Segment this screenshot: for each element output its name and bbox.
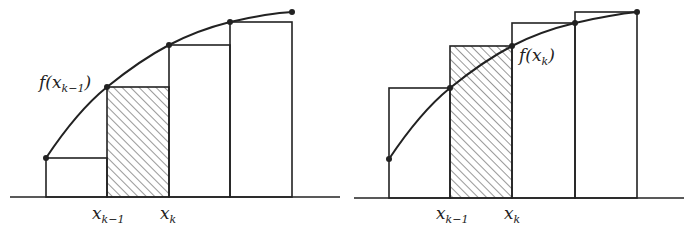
rectangles xyxy=(389,12,637,198)
axis-label-xk-1: xk−1 xyxy=(436,203,468,226)
riemann-sum-figure: f(xk−1) xk−1 xk f(xk) xyxy=(0,0,688,245)
hatched-rectangle xyxy=(107,87,169,197)
curve-points xyxy=(386,9,640,162)
axis-label-xk: xk xyxy=(160,203,177,226)
hatched-rectangle xyxy=(450,46,512,198)
right-sum-panel: f(xk) xk−1 xk xyxy=(354,9,684,226)
axis-label-xk-1: xk−1 xyxy=(92,203,124,226)
axis-label-xk: xk xyxy=(504,203,521,226)
left-sum-panel: f(xk−1) xk−1 xk xyxy=(10,9,340,226)
curve-label-f-xk-1: f(xk−1) xyxy=(37,72,91,95)
curve-label-f-xk: f(xk) xyxy=(517,45,555,68)
function-curve xyxy=(389,12,637,159)
